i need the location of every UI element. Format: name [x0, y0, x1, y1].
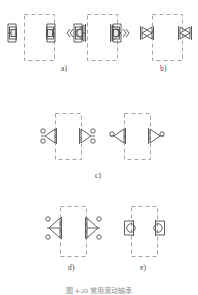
group-d [46, 207, 101, 257]
figure-label-b: b) [160, 64, 167, 73]
group-b [141, 15, 192, 61]
figure-label-d: d) [68, 263, 75, 272]
group-c [41, 114, 164, 160]
bearing-a2 [47, 24, 56, 42]
figure-label-a: a) [61, 64, 67, 73]
housing-d [61, 207, 87, 257]
housing-e [132, 207, 158, 257]
housing-a-left [25, 15, 55, 61]
figure-label-c: c) [95, 171, 101, 180]
housing-c-right [125, 114, 151, 160]
bearing-d1 [46, 217, 62, 239]
housing-c-left [56, 114, 82, 160]
bearing-c1 [41, 128, 57, 144]
group-e [125, 207, 165, 257]
bearing-d2 [86, 217, 102, 239]
housing-b-left [153, 15, 183, 61]
bearing-a1 [8, 24, 17, 42]
bearing-arrangement-figure [0, 0, 198, 295]
bearing-b1 [141, 26, 154, 40]
group-a [8, 15, 121, 61]
figure-caption: 图 4-20 常用滚动轴承 [0, 286, 198, 295]
bearing-c3 [110, 128, 126, 144]
figure-label-e: e) [140, 263, 146, 272]
bearing-e2 [154, 220, 165, 236]
bearing-b2 [179, 26, 192, 40]
bearing-e1 [125, 220, 136, 236]
